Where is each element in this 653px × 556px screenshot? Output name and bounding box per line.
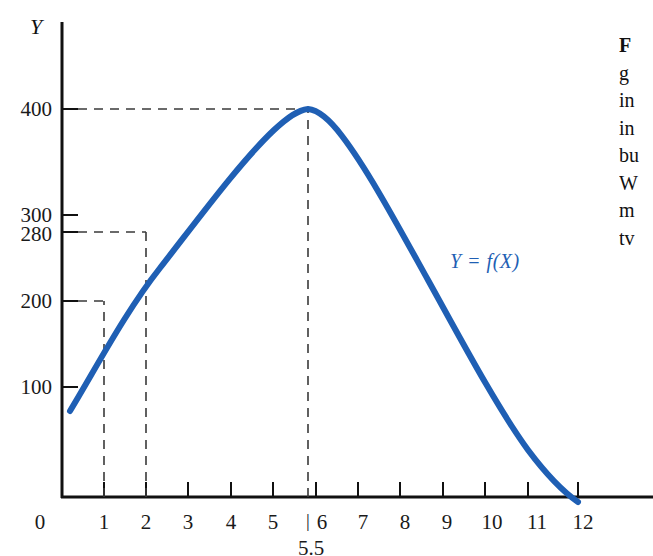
y-tick-label-400: 400 bbox=[0, 99, 52, 120]
x-tick-label-6: 6 bbox=[317, 512, 328, 533]
y-axis-ticks bbox=[62, 109, 78, 387]
caption-line-6: W bbox=[619, 170, 653, 198]
x-tick-label-9: 9 bbox=[442, 512, 453, 533]
caption-line-8: tv bbox=[619, 225, 653, 253]
figure-caption: F g in in bu W m tv bbox=[619, 32, 653, 252]
y-tick-label-280: 280 bbox=[0, 224, 52, 245]
curve-equation-label: Y = f(X) bbox=[450, 250, 520, 273]
x-tick-label-4: 4 bbox=[226, 512, 237, 533]
x-tick-label-8: 8 bbox=[400, 512, 411, 533]
x-tick-label-2: 2 bbox=[141, 512, 152, 533]
x-tick-label-10: 10 bbox=[482, 512, 503, 533]
x-tick-mark-5point5: | bbox=[306, 510, 310, 532]
caption-line-5: bu bbox=[619, 142, 653, 170]
x-tick-label-5: 5 bbox=[268, 512, 279, 533]
x-tick-label-0: 0 bbox=[35, 512, 46, 533]
y-tick-label-100: 100 bbox=[0, 377, 52, 398]
x-tick-label-12: 12 bbox=[573, 512, 594, 533]
y-tick-label-200: 200 bbox=[0, 291, 52, 312]
chart-svg bbox=[0, 0, 653, 556]
x-tick-label-5point5: 5.5 bbox=[298, 536, 324, 556]
caption-line-2: g bbox=[619, 60, 653, 88]
x-tick-label-7: 7 bbox=[358, 512, 369, 533]
figure-container: Y 400 300 280 200 100 0 1 2 3 4 5 6 7 8 … bbox=[0, 0, 653, 556]
caption-line-7: m bbox=[619, 197, 653, 225]
x-tick-label-1: 1 bbox=[99, 512, 110, 533]
caption-line-4: in bbox=[619, 115, 653, 143]
x-tick-label-3: 3 bbox=[183, 512, 194, 533]
x-axis-ticks bbox=[104, 482, 578, 497]
caption-line-3: in bbox=[619, 87, 653, 115]
x-tick-label-11: 11 bbox=[527, 512, 547, 533]
axes-group bbox=[61, 22, 653, 498]
y-axis-label: Y bbox=[30, 14, 42, 40]
caption-line-1: F bbox=[619, 32, 653, 60]
chart-plot-area: Y 400 300 280 200 100 0 1 2 3 4 5 6 7 8 … bbox=[0, 0, 653, 556]
dashed-guides bbox=[78, 109, 308, 497]
